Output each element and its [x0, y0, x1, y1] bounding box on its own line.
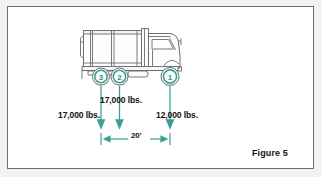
axle-2-load-label: 17,000 lbs. [100, 95, 142, 105]
axle-3-load-label: 17,000 lbs. [58, 110, 100, 120]
fuel-tank [128, 71, 148, 77]
axle-marker-2-label: 2 [117, 73, 122, 82]
axle-marker-3-label: 3 [99, 73, 104, 82]
load-arrow-group [98, 86, 174, 128]
axle-marker-2: 2 [113, 70, 125, 82]
figure-page: 3 2 1 [0, 0, 322, 177]
axle-marker-1: 1 [163, 70, 176, 83]
figure-caption: Figure 5 [252, 148, 288, 158]
load-arrow-2-head [116, 120, 123, 128]
span-arrowhead-right [161, 136, 167, 142]
cab-outline [149, 34, 181, 69]
axle-marker-3: 3 [95, 70, 107, 82]
load-arrow-3-head [98, 120, 105, 128]
headache-rack [142, 29, 149, 67]
span-arrowhead-left [104, 136, 110, 142]
axle-1-load-label: 12,000 lbs. [156, 110, 198, 120]
span-dimension-label: 20' [131, 131, 142, 140]
axle-marker-1-label: 1 [168, 73, 173, 82]
load-arrow-1-head [167, 120, 174, 128]
